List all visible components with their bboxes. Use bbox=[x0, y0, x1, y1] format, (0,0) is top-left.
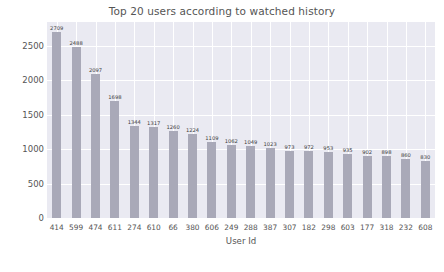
bar-value-label: 1049 bbox=[244, 139, 257, 145]
bar-value-label: 1344 bbox=[128, 119, 141, 125]
x-tick-label: 298 bbox=[321, 223, 335, 232]
bar bbox=[52, 32, 61, 218]
x-tick-label: 608 bbox=[418, 223, 432, 232]
bar-value-label: 973 bbox=[285, 144, 295, 150]
chart-figure: Top 20 users according to watched histor… bbox=[0, 0, 444, 272]
bar-value-label: 1109 bbox=[205, 135, 218, 141]
y-gridline bbox=[47, 149, 435, 150]
x-tick-label: 318 bbox=[379, 223, 393, 232]
bar-value-label: 1317 bbox=[147, 120, 160, 126]
bar bbox=[110, 101, 119, 218]
bar bbox=[130, 126, 139, 218]
y-tick-label: 0 bbox=[2, 213, 44, 223]
bar bbox=[304, 151, 313, 218]
bar-value-label: 2488 bbox=[69, 40, 82, 46]
bar-value-label: 1698 bbox=[108, 94, 121, 100]
bar bbox=[227, 145, 236, 218]
x-tick-label: 603 bbox=[341, 223, 355, 232]
bar bbox=[149, 127, 158, 218]
y-tick-label: 1500 bbox=[2, 110, 44, 120]
chart-title: Top 20 users according to watched histor… bbox=[0, 5, 444, 17]
bar bbox=[169, 131, 178, 218]
y-gridline bbox=[47, 184, 435, 185]
x-tick-label: 182 bbox=[302, 223, 316, 232]
bar-value-label: 898 bbox=[382, 149, 392, 155]
x-tick-label: 307 bbox=[282, 223, 296, 232]
bar bbox=[188, 134, 197, 218]
bar-value-label: 1023 bbox=[263, 141, 276, 147]
x-tick-label: 249 bbox=[224, 223, 238, 232]
bar bbox=[207, 142, 216, 218]
bar-value-label: 953 bbox=[323, 145, 333, 151]
y-axis: 05001000150020002500 bbox=[0, 22, 44, 218]
y-tick-label: 2000 bbox=[2, 75, 44, 85]
x-tick-label: 274 bbox=[127, 223, 141, 232]
x-tick-label: 232 bbox=[399, 223, 413, 232]
bar bbox=[401, 159, 410, 218]
bar bbox=[382, 156, 391, 218]
x-tick-label: 380 bbox=[185, 223, 199, 232]
bar bbox=[363, 156, 372, 218]
x-tick-label: 288 bbox=[244, 223, 258, 232]
bar-value-label: 1062 bbox=[225, 138, 238, 144]
bar-value-label: 902 bbox=[362, 149, 372, 155]
bar-value-label: 2097 bbox=[89, 67, 102, 73]
bar bbox=[266, 148, 275, 218]
x-tick-label: 610 bbox=[147, 223, 161, 232]
x-tick-label: 66 bbox=[168, 223, 177, 232]
x-tick-label: 606 bbox=[205, 223, 219, 232]
bar-value-label: 860 bbox=[401, 152, 411, 158]
x-tick-label: 599 bbox=[69, 223, 83, 232]
bar bbox=[246, 146, 255, 218]
bar bbox=[421, 161, 430, 218]
plot-area bbox=[47, 22, 435, 218]
x-axis-label: User Id bbox=[47, 236, 435, 246]
y-gridline bbox=[47, 115, 435, 116]
bar-value-label: 935 bbox=[343, 147, 353, 153]
bar bbox=[91, 74, 100, 218]
x-tick-label: 387 bbox=[263, 223, 277, 232]
x-tick-label: 414 bbox=[50, 223, 64, 232]
x-tick-label: 177 bbox=[360, 223, 374, 232]
y-tick-label: 2500 bbox=[2, 41, 44, 51]
x-tick-label: 474 bbox=[88, 223, 102, 232]
bar bbox=[343, 154, 352, 218]
y-gridline bbox=[47, 80, 435, 81]
bar-value-label: 830 bbox=[420, 154, 430, 160]
bar bbox=[285, 151, 294, 218]
bar-value-label: 2709 bbox=[50, 25, 63, 31]
bar bbox=[72, 47, 81, 218]
y-tick-label: 500 bbox=[2, 179, 44, 189]
x-tick-label: 611 bbox=[108, 223, 122, 232]
y-tick-label: 1000 bbox=[2, 144, 44, 154]
bar-value-label: 972 bbox=[304, 144, 314, 150]
bar-value-label: 1224 bbox=[186, 127, 199, 133]
bar-value-label: 1260 bbox=[166, 124, 179, 130]
y-gridline bbox=[47, 46, 435, 47]
bar bbox=[324, 152, 333, 218]
